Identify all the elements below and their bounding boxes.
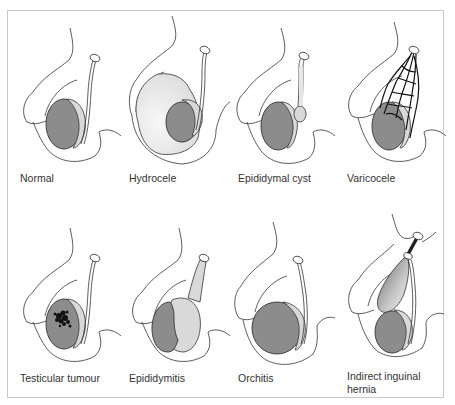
normal-illustration: [15, 22, 125, 172]
hydrocele-illustration: [124, 12, 234, 172]
panel-label: Orchitis: [238, 372, 274, 385]
panel-label: Epididymal cyst: [238, 172, 311, 185]
indirect-inguinal-hernia-illustration: [342, 214, 452, 372]
epididymitis-illustration: [124, 222, 234, 372]
panel-label-line2: hernia: [347, 383, 421, 396]
panel-label: Hydrocele: [129, 172, 176, 185]
panel-label-line1: Indirect inguinal: [347, 370, 421, 383]
panel-label: Normal: [20, 172, 54, 185]
orchitis-illustration: [233, 222, 343, 372]
panel-varicocele: Varicocele: [342, 22, 452, 212]
panel-label: Indirect inguinal hernia: [347, 370, 421, 396]
varicocele-illustration: [342, 22, 452, 172]
panel-indirect-inguinal-hernia: Indirect inguinal hernia: [342, 214, 452, 404]
testicular-tumour-illustration: [15, 222, 125, 372]
panel-testicular-tumour: Testicular tumour: [15, 222, 125, 405]
panel-hydrocele: Hydrocele: [124, 12, 234, 202]
epididymal-cyst-illustration: [233, 22, 343, 172]
panel-label: Varicocele: [347, 172, 395, 185]
panel-epididymitis: Epididymitis: [124, 222, 234, 405]
panel-normal: Normal: [15, 22, 125, 212]
panel-orchitis: Orchitis: [233, 222, 343, 405]
panel-label: Testicular tumour: [20, 372, 100, 385]
panel-epididymal-cyst: Epididymal cyst: [233, 22, 343, 212]
panel-label: Epididymitis: [129, 372, 185, 385]
